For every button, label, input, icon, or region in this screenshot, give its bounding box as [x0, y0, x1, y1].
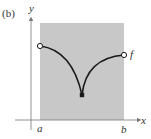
shaded-region	[40, 23, 124, 120]
x-axis-label: x	[140, 114, 146, 126]
panel-label: (b)	[2, 7, 15, 20]
figure: (b) y x a b f	[0, 0, 151, 139]
open-endpoint-left	[37, 43, 42, 48]
interval-label-a: a	[37, 122, 43, 134]
function-label: f	[130, 48, 135, 60]
open-endpoint-right	[121, 52, 126, 57]
y-axis-label: y	[28, 2, 34, 14]
interval-label-b: b	[121, 123, 127, 135]
closed-minimum-point	[80, 93, 84, 97]
